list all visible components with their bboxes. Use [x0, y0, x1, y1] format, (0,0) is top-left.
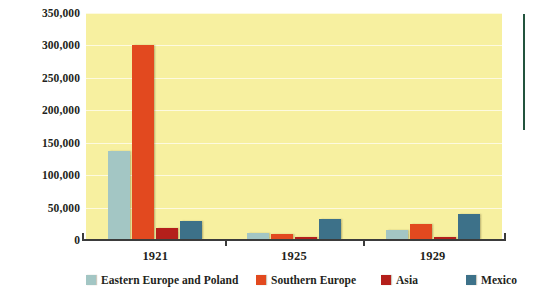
x-axis-label-1925: 1925	[281, 249, 307, 264]
y-axis-tick-label: 250,000	[2, 72, 80, 84]
chart-figure: 350,000300,000250,000200,000150,000100,0…	[0, 0, 535, 301]
legend-swatch-icon	[466, 275, 476, 285]
legend-swatch-icon	[256, 275, 266, 285]
legend-item-mexico: Mexico	[466, 272, 517, 288]
x-axis-tick	[363, 239, 365, 246]
bar-1925-mexico	[319, 219, 341, 240]
chart-legend: Eastern Europe and PolandSouthern Europe…	[86, 272, 526, 290]
bar-group-1925	[247, 13, 341, 240]
x-axis-label-1921: 1921	[142, 249, 168, 264]
y-axis-tick-label: 100,000	[2, 169, 80, 181]
x-axis-label-1929: 1929	[420, 249, 446, 264]
bar-1929-southern-europe	[410, 224, 432, 240]
bar-1929-mexico	[458, 214, 480, 240]
y-axis-tick-label: 50,000	[2, 202, 80, 214]
legend-label: Southern Europe	[271, 274, 356, 286]
x-axis-tick	[225, 239, 227, 246]
legend-swatch-icon	[86, 275, 96, 285]
legend-item-southern-europe: Southern Europe	[256, 272, 356, 288]
x-axis-line	[82, 239, 506, 241]
page-accent-rule	[523, 14, 525, 130]
legend-item-eastern-europe-and-poland: Eastern Europe and Poland	[86, 272, 238, 288]
y-axis-tick-label: 300,000	[2, 39, 80, 51]
legend-item-asia: Asia	[381, 272, 418, 288]
bar-1921-southern-europe	[132, 45, 154, 240]
bar-1921-mexico	[180, 221, 202, 240]
legend-label: Asia	[396, 274, 418, 286]
y-axis-tick-label: 200,000	[2, 104, 80, 116]
bar-1921-eastern-europe-and-poland	[108, 151, 130, 240]
x-axis-right-cap	[504, 233, 506, 241]
bar-group-1921	[108, 13, 202, 240]
legend-label: Eastern Europe and Poland	[101, 274, 238, 286]
y-axis-tick-label: 0	[2, 234, 80, 246]
legend-swatch-icon	[381, 275, 391, 285]
legend-label: Mexico	[481, 274, 517, 286]
bar-group-1929	[386, 13, 480, 240]
plot-area	[86, 13, 502, 240]
y-axis-labels: 350,000300,000250,000200,000150,000100,0…	[0, 0, 80, 250]
y-axis-tick-label: 150,000	[2, 137, 80, 149]
y-axis-tick-label: 350,000	[2, 7, 80, 19]
